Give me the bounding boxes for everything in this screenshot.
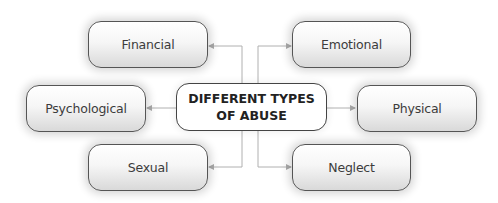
node-sexual: Sexual <box>88 144 208 191</box>
node-emotional: Emotional <box>292 21 411 68</box>
connector-emotional <box>258 46 291 83</box>
node-physical: Physical <box>357 85 477 132</box>
abuse-types-diagram: Financial Emotional Psychological DIFFER… <box>0 0 498 203</box>
node-neglect: Neglect <box>292 144 411 191</box>
node-label: Emotional <box>321 37 382 52</box>
node-label: Financial <box>122 37 175 52</box>
connector-neglect <box>258 130 291 167</box>
node-label: Physical <box>392 101 441 116</box>
node-label: Sexual <box>128 160 169 175</box>
central-title-line2: OF ABUSE <box>216 107 286 124</box>
connector-financial <box>209 46 242 83</box>
node-label: Neglect <box>328 160 375 175</box>
node-financial: Financial <box>88 21 208 68</box>
node-label: Psychological <box>45 101 127 116</box>
connector-sexual <box>209 130 242 167</box>
node-psychological: Psychological <box>26 85 146 132</box>
central-title-line1: DIFFERENT TYPES <box>188 90 314 107</box>
central-node: DIFFERENT TYPES OF ABUSE <box>176 83 327 131</box>
